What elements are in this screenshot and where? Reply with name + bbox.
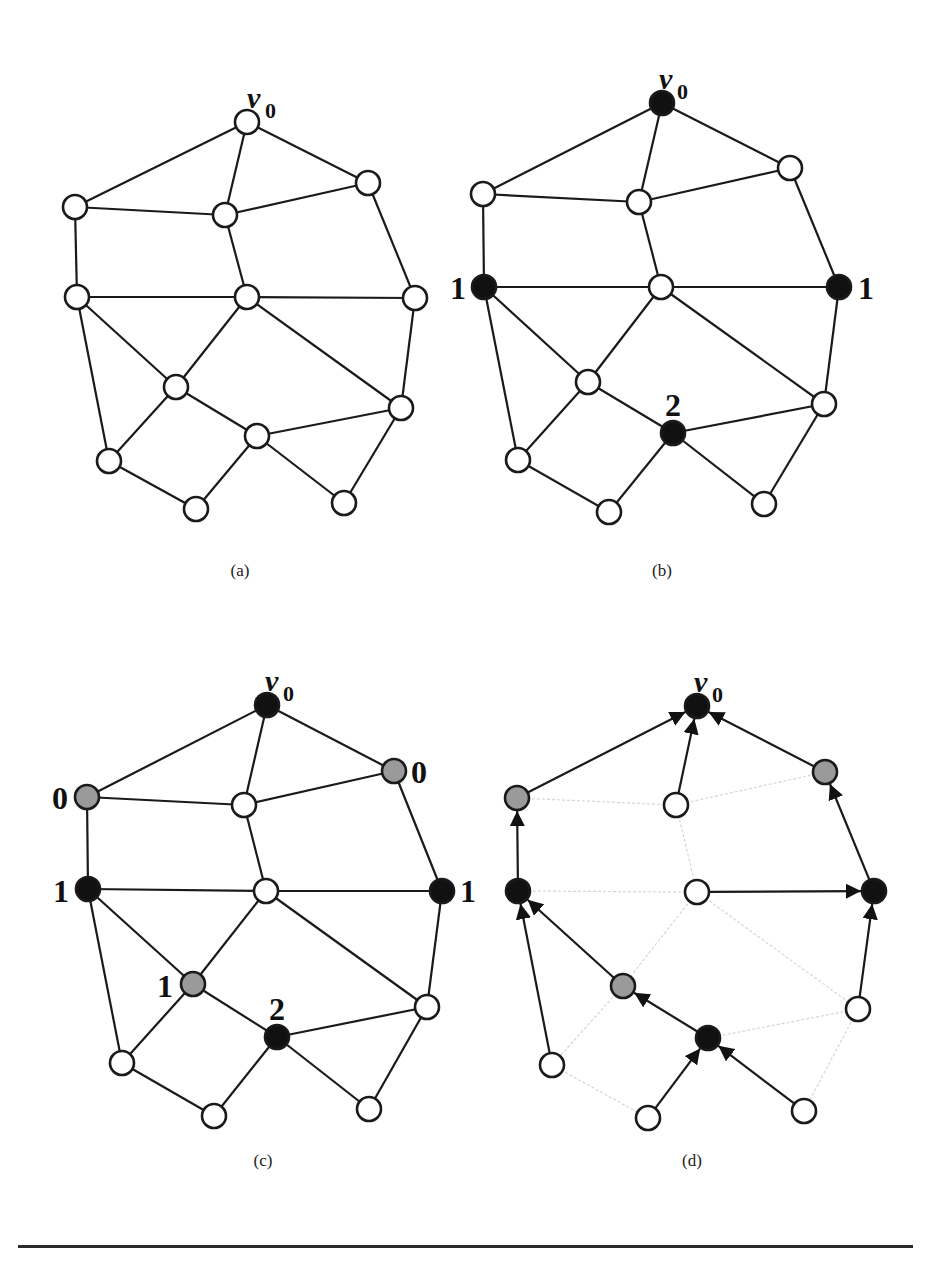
graph-node <box>813 760 837 784</box>
graph-edge <box>483 103 662 194</box>
graph-edge <box>257 408 401 436</box>
panel-b-level-sets: v0112(b) <box>450 62 874 580</box>
graph-edge <box>176 387 257 436</box>
graph-node <box>97 449 121 473</box>
tree-edge-arrow <box>634 993 698 1032</box>
graph-edge <box>518 460 609 512</box>
graph-node <box>403 286 427 310</box>
graph-edge <box>708 1009 858 1038</box>
root-label: v <box>659 62 673 95</box>
graph-node <box>827 275 851 299</box>
graph-node <box>232 793 256 817</box>
panel-c-labelled-distances: v0001112(c) <box>52 664 476 1170</box>
panel-d-shortest-path-tree: v0(d) <box>505 665 886 1170</box>
graph-node <box>792 1099 816 1123</box>
graph-node <box>254 879 278 903</box>
graph-edge <box>697 892 858 1009</box>
graph-node <box>636 1106 660 1130</box>
graph-edge <box>277 1007 427 1037</box>
graph-edge <box>75 207 225 215</box>
root-label-subscript: 0 <box>265 98 276 123</box>
graph-node <box>506 879 530 903</box>
graph-node <box>696 1026 720 1050</box>
graph-edge <box>176 297 247 387</box>
graph-edge <box>369 1007 427 1109</box>
graph-edge <box>196 436 257 509</box>
panel-caption: (d) <box>682 1151 702 1170</box>
graph-edge <box>623 892 697 986</box>
root-label: v <box>265 664 279 697</box>
graph-edge <box>401 298 415 408</box>
graph-edge <box>75 122 247 207</box>
graph-edge <box>804 1009 858 1111</box>
graph-edge <box>764 404 824 504</box>
graph-node <box>63 195 87 219</box>
graph-node <box>846 997 870 1021</box>
figure-bottom-rule <box>18 1245 913 1248</box>
graph-edge <box>552 1065 648 1118</box>
distance-label: 1 <box>460 873 476 909</box>
graph-edge <box>676 772 825 805</box>
graph-node <box>812 392 836 416</box>
tree-edge-arrow <box>709 712 815 767</box>
root-label: v <box>247 81 261 114</box>
graph-edge <box>88 889 266 891</box>
graph-node <box>181 972 205 996</box>
tree-edge-arrow <box>718 1046 794 1104</box>
graph-node <box>357 1097 381 1121</box>
graph-edge <box>267 705 394 771</box>
distance-label: 1 <box>157 968 173 1004</box>
graph-edge <box>517 798 676 805</box>
graph-node <box>472 275 496 299</box>
graph-node <box>265 1025 289 1049</box>
graph-edge <box>214 1037 277 1116</box>
distance-label: 0 <box>52 780 68 816</box>
graph-node <box>649 275 673 299</box>
graph-node <box>75 785 99 809</box>
tree-edge-arrow <box>860 904 873 997</box>
graph-node <box>627 190 651 214</box>
graph-edge <box>87 797 244 805</box>
graph-edge <box>109 387 176 461</box>
graph-edge <box>662 103 790 168</box>
graph-edge <box>225 122 247 215</box>
graph-edge <box>676 805 697 892</box>
graph-edge <box>483 194 484 287</box>
graph-edge <box>368 183 415 298</box>
graph-edge <box>639 168 790 202</box>
graph-node <box>752 492 776 516</box>
graph-edge <box>588 382 673 433</box>
graph-node <box>213 203 237 227</box>
graph-node <box>505 786 529 810</box>
graph-edge <box>518 382 588 460</box>
distance-label: 2 <box>665 387 681 423</box>
graph-edge <box>122 1063 214 1116</box>
graph-edge <box>75 207 77 297</box>
graph-node <box>540 1053 564 1077</box>
graph-node <box>235 285 259 309</box>
panel-caption: (c) <box>254 1151 273 1170</box>
tree-edge-arrow <box>528 712 686 793</box>
graph-node <box>685 880 709 904</box>
bfs-tree-figure: v0(a) v0112(b) v0001112(c) v0(d) <box>0 0 943 1261</box>
root-label-subscript: 0 <box>677 79 688 104</box>
tree-edge-arrow <box>517 811 518 879</box>
distance-label: 1 <box>450 270 466 306</box>
graph-edge <box>518 891 697 892</box>
graph-edge <box>87 797 88 889</box>
graph-edge <box>109 461 196 509</box>
distance-label: 2 <box>269 991 285 1027</box>
panel-caption: (a) <box>231 561 250 580</box>
graph-node <box>611 974 635 998</box>
graph-edge <box>247 297 415 298</box>
tree-edge-arrow <box>528 900 614 978</box>
graph-node <box>661 421 685 445</box>
graph-edge <box>257 436 344 503</box>
distance-label: 0 <box>411 754 427 790</box>
graph-edge <box>661 287 824 404</box>
graph-node <box>664 793 688 817</box>
graph-node <box>778 156 802 180</box>
tree-edge-arrow <box>678 719 694 794</box>
graph-edge <box>244 771 394 805</box>
graph-node <box>862 879 886 903</box>
